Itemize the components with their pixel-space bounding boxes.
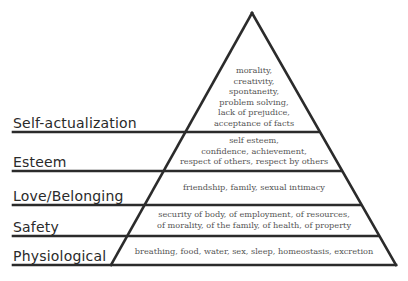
level-description-safety: security of body, of employment, of reso… <box>157 209 351 230</box>
level-label-love-belonging: Love/Belonging <box>13 189 124 203</box>
description-line: lack of prejudice, <box>214 107 294 118</box>
description-line: morality, <box>214 65 294 76</box>
description-line: self esteem, <box>180 135 328 146</box>
level-description-self-actualization: morality, creativity, spontaneity, probl… <box>214 65 294 128</box>
level-label-safety: Safety <box>13 220 59 234</box>
level-label-esteem: Esteem <box>13 155 67 169</box>
description-line: breathing, food, water, sex, sleep, home… <box>135 246 373 257</box>
level-label-physiological: Physiological <box>13 249 106 263</box>
description-line: security of body, of employment, of reso… <box>157 209 351 220</box>
description-line: problem solving, <box>214 97 294 108</box>
description-line: acceptance of facts <box>214 118 294 129</box>
description-line: of morality, of the family, of health, o… <box>157 220 351 231</box>
description-line: friendship, family, sexual intimacy <box>183 182 325 193</box>
description-line: spontaneity, <box>214 86 294 97</box>
description-line: creativity, <box>214 76 294 87</box>
level-label-self-actualization: Self-actualization <box>13 116 137 130</box>
level-description-physiological: breathing, food, water, sex, sleep, home… <box>135 246 373 257</box>
level-description-love-belonging: friendship, family, sexual intimacy <box>183 182 325 193</box>
description-line: confidence, achievement, <box>180 146 328 157</box>
level-description-esteem: self esteem, confidence, achievement, re… <box>180 135 328 167</box>
description-line: respect of others, respect by others <box>180 156 328 167</box>
